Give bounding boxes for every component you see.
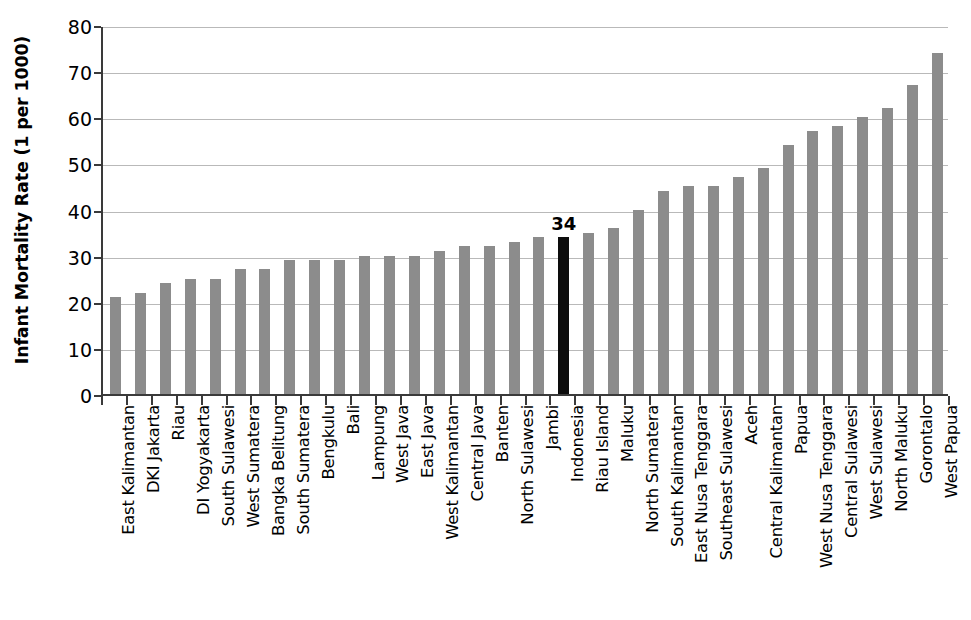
x-axis-tick-label: West Java [393,405,412,483]
bar [309,260,320,394]
bar [259,269,270,394]
y-axis-tick-label: 10 [40,339,92,361]
x-axis-tick [724,396,726,405]
x-axis-tick [500,396,502,405]
x-axis-tick-label: Bangka Belitung [269,405,288,536]
x-axis-tick-label: Gorontalo [917,405,936,483]
bar [832,126,843,394]
bar [758,168,769,394]
y-axis-labels: 01020304050607080 [0,0,92,620]
x-axis-tick-label: Bali [344,405,363,434]
x-axis-tick-label: Riau Island [593,405,612,493]
x-axis-tick-label: Banten [493,405,512,462]
y-axis-tick [94,26,101,28]
x-axis-tick-label: West Sumatera [244,405,263,528]
x-axis-tick-label: Riau [169,405,188,440]
x-axis-tick [574,396,576,405]
bar [907,85,918,394]
bar [683,186,694,394]
x-axis-tick [749,396,751,405]
y-axis-tick [94,72,101,74]
x-axis-tick-label: North Sumatera [643,405,662,533]
x-axis-tick-label: Lampung [369,405,388,480]
bar-value-label: 34 [551,213,576,234]
x-axis-tick-label: DKI Jakarta [144,405,163,493]
bar [783,145,794,394]
x-axis-tick [774,396,776,405]
bar [608,228,619,394]
y-axis-tick [94,257,101,259]
x-axis-tick-label: East Kalimantan [119,405,138,535]
bar [459,246,470,394]
y-axis-tick [94,349,101,351]
x-axis-tick [823,396,825,405]
y-axis-tick-label: 50 [40,154,92,176]
x-axis-tick [201,396,203,405]
x-axis-tick-label: Central Sulawesi [842,405,861,538]
x-axis-tick [848,396,850,405]
x-axis-tick [425,396,427,405]
bar [434,251,445,394]
y-axis-tick-label: 40 [40,201,92,223]
x-axis-tick [101,396,103,405]
y-axis-tick [94,211,101,213]
bar [185,279,196,394]
y-axis-tick [94,164,101,166]
bar [210,279,221,394]
x-axis-ticks [101,396,948,405]
y-axis-tick-label: 80 [40,16,92,38]
x-axis-tick-label: North Sulawesi [518,405,537,525]
bar [882,108,893,394]
x-axis-tick [799,396,801,405]
bar [484,246,495,394]
x-axis-tick-label: Central Kalimantan [767,405,786,558]
x-axis-tick [624,396,626,405]
x-axis-tick [151,396,153,405]
x-axis-tick [649,396,651,405]
x-axis-tick-label: Jambi [543,405,562,450]
x-axis-tick [873,396,875,405]
x-axis-tick-label: West Papua [942,405,961,498]
x-axis-tick-label: Papua [792,405,811,454]
x-axis-tick-label: Central Java [468,405,487,502]
bar [807,131,818,394]
x-axis-tick-label: East Nusa Tenggara [692,405,711,563]
y-axis-tick [94,303,101,305]
x-axis-tick-label: South Sulawesi [219,405,238,526]
y-axis-tick [94,118,101,120]
y-axis-tick-label: 20 [40,293,92,315]
bar [733,177,744,394]
x-axis-tick [450,396,452,405]
bar [409,256,420,394]
bar [284,260,295,394]
x-axis-tick [599,396,601,405]
y-axis-tick [94,395,101,397]
plot-area: 34 [101,27,948,396]
x-axis-tick-label: Maluku [618,405,637,462]
y-axis-tick-label: 30 [40,247,92,269]
x-axis-tick-label: Southeast Sulawesi [717,405,736,561]
x-axis-tick [325,396,327,405]
bar [384,256,395,394]
bar [160,283,171,394]
x-axis-labels: East KalimantanDKI JakartaRiauDI Yogyaka… [101,405,948,620]
x-axis-tick-label: West Nusa Tenggara [817,405,836,568]
bar [235,269,246,394]
bar [110,297,121,394]
x-axis-tick-label: DI Yogyakarta [194,405,213,515]
x-axis-tick [126,396,128,405]
bar [932,53,943,394]
x-axis-tick [674,396,676,405]
x-axis-tick [948,396,950,405]
bar [533,237,544,394]
bar [135,293,146,394]
x-axis-tick [400,396,402,405]
x-axis-tick-label: West Kalimantan [443,405,462,540]
x-axis-tick-label: Aceh [742,405,761,444]
x-axis-tick-label: Bengkulu [319,405,338,480]
bar [334,260,345,394]
x-axis-tick [923,396,925,405]
bar [583,233,594,394]
bar [359,256,370,394]
infant-mortality-bar-chart: Infant Mortality Rate (1 per 1000) 01020… [0,0,971,620]
